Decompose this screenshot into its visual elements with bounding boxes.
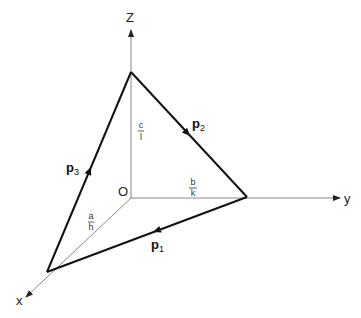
svg-text:c: c [139, 120, 144, 130]
y-axis-label: y [344, 191, 351, 206]
diagram-canvas: Z y x O p1 p2 p3 c l b k a h [0, 0, 361, 318]
p3-arrow-icon [85, 166, 95, 176]
z-intercept-fraction: c l [138, 120, 144, 142]
origin-label: O [118, 184, 128, 199]
svg-text:l: l [140, 132, 142, 142]
svg-text:h: h [88, 222, 93, 232]
x-axis-label: x [16, 293, 23, 308]
vector-p3-label: p3 [66, 160, 79, 177]
y-intercept-fraction: b k [189, 177, 197, 198]
svg-text:k: k [191, 188, 196, 198]
z-axis-label: Z [126, 10, 134, 25]
x-intercept-fraction: a h [88, 211, 94, 232]
p1-arrow-icon [152, 226, 162, 235]
x-axis [26, 198, 131, 297]
vector-p1-line [47, 197, 247, 272]
vector-p1-label: p1 [151, 237, 164, 254]
svg-text:b: b [190, 177, 195, 187]
svg-text:a: a [88, 211, 93, 221]
vector-p2-label: p2 [192, 116, 205, 133]
